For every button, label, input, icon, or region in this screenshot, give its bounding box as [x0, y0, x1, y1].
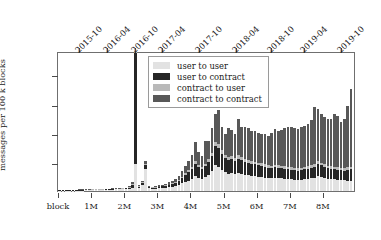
bar-segment: [274, 167, 277, 178]
x-tick-label: 2M: [117, 201, 131, 211]
bar: [194, 142, 197, 191]
bar-segment: [85, 190, 88, 191]
bar-segment: [307, 124, 310, 167]
bar-segment: [323, 167, 326, 178]
bar-segment: [317, 164, 320, 176]
bar-segment: [310, 178, 313, 191]
legend-label-user-to-contract: user to contract: [177, 72, 245, 82]
bar-segment: [184, 175, 187, 182]
bar-segment: [214, 114, 217, 142]
bar-segment: [224, 134, 227, 155]
bar: [171, 181, 174, 191]
bar: [327, 119, 330, 191]
bar: [254, 131, 257, 191]
bar: [154, 186, 157, 191]
bar-segment: [131, 188, 134, 192]
bar-segment: [88, 190, 91, 191]
bar-segment: [287, 169, 290, 179]
bar: [240, 127, 243, 191]
bar-segment: [234, 161, 237, 174]
x-tick-label: 4M: [184, 201, 198, 211]
bar-segment: [254, 131, 257, 162]
bar-segment: [277, 168, 280, 178]
bar-segment: [257, 165, 260, 176]
bar-segment: [340, 122, 343, 168]
x-tick: [290, 193, 291, 198]
bar-segment: [327, 179, 330, 191]
bar-segment: [217, 167, 220, 192]
legend-item: user to contract: [153, 71, 262, 82]
top-tick-label: 2018-10: [264, 24, 295, 55]
bar-segment: [214, 165, 217, 191]
bar-segment: [224, 158, 227, 172]
bar-segment: [204, 177, 207, 191]
bar-segment: [340, 170, 343, 180]
top-tick-label: 2018-04: [230, 24, 261, 55]
bar-segment: [313, 167, 316, 178]
bar: [187, 161, 190, 191]
bar-segment: [260, 134, 263, 163]
bar-segment: [320, 114, 323, 162]
top-tick-label: 2019-10: [335, 24, 366, 55]
bar-segment: [350, 181, 353, 191]
bar-segment: [297, 129, 300, 168]
bar-segment: [111, 190, 114, 191]
bar-segment: [138, 188, 141, 191]
bar-segment: [118, 189, 121, 191]
y-tick: [52, 106, 58, 107]
bar: [300, 127, 303, 191]
bar-segment: [313, 178, 316, 191]
bar-segment: [237, 159, 240, 173]
bar-segment: [260, 177, 263, 191]
bar-segment: [336, 170, 339, 180]
y-tick: [52, 76, 58, 77]
bar: [211, 128, 214, 191]
bar-segment: [293, 180, 296, 191]
legend-swatch-contract-to-contract: [153, 95, 170, 102]
bar: [323, 117, 326, 191]
bar: [108, 189, 111, 192]
bar-segment: [346, 170, 349, 181]
bar-segment: [300, 127, 303, 168]
bar-segment: [204, 141, 207, 163]
bar: [346, 106, 349, 191]
x-tick-label: 6M: [250, 201, 264, 211]
bar-segment: [128, 189, 131, 191]
bar-segment: [201, 169, 204, 178]
bar-segment: [270, 178, 273, 191]
bar-segment: [108, 190, 111, 191]
bar-segment: [310, 168, 313, 179]
bar-segment: [187, 181, 190, 192]
bar-segment: [297, 180, 300, 191]
bar-segment: [227, 160, 230, 173]
legend-item: contract to contract: [153, 93, 262, 104]
bar: [78, 189, 81, 191]
bar-segment: [330, 119, 333, 166]
x-tick-label: 5M: [217, 201, 231, 211]
bar-segment: [230, 173, 233, 191]
bar-segment: [290, 179, 293, 191]
bar: [151, 187, 154, 191]
bar-segment: [264, 134, 267, 165]
legend-label-contract-to-contract: contract to contract: [177, 94, 262, 104]
bar-segment: [247, 128, 250, 160]
legend-label-contract-to-user: contract to user: [177, 83, 245, 93]
bar-segment: [227, 128, 230, 157]
bar: [62, 190, 65, 191]
top-tick-label: 2017-04: [156, 24, 187, 55]
bar: [125, 188, 128, 191]
bar-segment: [350, 89, 353, 167]
bar: [260, 134, 263, 191]
legend-label-user-to-user: user to user: [177, 61, 228, 71]
bar-segment: [250, 176, 253, 191]
bar: [267, 136, 270, 191]
bar: [141, 181, 144, 191]
top-tick-label: 2015-10: [72, 24, 103, 55]
bar: [98, 189, 101, 191]
bar-segment: [105, 190, 108, 191]
bar-segment: [280, 168, 283, 178]
bar: [317, 109, 320, 191]
y-tick: [52, 135, 58, 136]
bar-segment: [283, 128, 286, 167]
bar: [58, 190, 61, 191]
